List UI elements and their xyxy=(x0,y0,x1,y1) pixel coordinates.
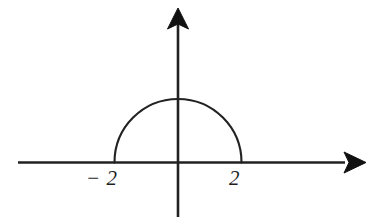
x-axis-right-arrowhead-icon xyxy=(344,152,366,173)
x-tick-label-negative-two: − 2 xyxy=(86,168,117,189)
graph-svg xyxy=(0,0,374,217)
x-tick-label-positive-two: 2 xyxy=(229,168,240,189)
figure-canvas: − 2 2 xyxy=(0,0,374,217)
